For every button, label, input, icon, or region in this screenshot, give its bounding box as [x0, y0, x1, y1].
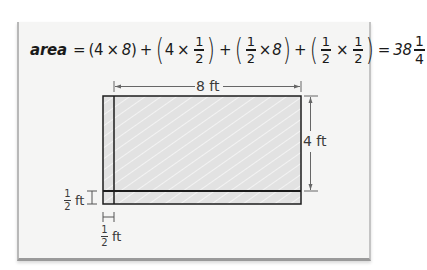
strip-height-label: 1 2 ft: [62, 189, 84, 212]
denominator: 4: [415, 52, 424, 66]
unit: ft: [112, 229, 121, 244]
strip-height-bracket: [87, 191, 97, 204]
numerator: 1: [64, 189, 70, 199]
result-fraction: 1 4: [414, 34, 425, 65]
denominator: 2: [101, 238, 107, 248]
height-label: 4 ft: [303, 133, 327, 149]
denominator: 2: [64, 202, 70, 212]
numerator: 1: [101, 225, 107, 235]
shaded-rectangle: [103, 96, 301, 204]
strip-width-bracket: [103, 212, 114, 222]
strip-width-label: 1 2 ft: [99, 225, 121, 248]
fraction-half: 1 2: [101, 225, 108, 248]
width-label: 8 ft: [196, 78, 220, 94]
numerator: 1: [415, 34, 424, 48]
fraction-half: 1 2: [64, 189, 71, 212]
unit: ft: [75, 193, 84, 208]
result-whole: 38: [393, 41, 412, 59]
